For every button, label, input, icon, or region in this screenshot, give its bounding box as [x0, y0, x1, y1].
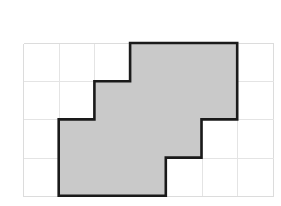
shaded-region-polygon: [59, 43, 238, 196]
figure-canvas: Shaded polygon on square grid: [0, 0, 281, 206]
polygon-group: [59, 43, 238, 196]
grid-polygon-figure: [0, 0, 281, 206]
